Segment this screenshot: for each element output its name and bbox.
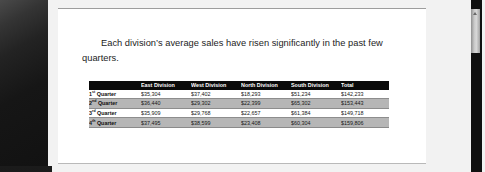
column-header-north: North Division (241, 81, 291, 90)
quarter-word: Quarter (95, 91, 116, 97)
cell-east-q2: $36,440 (141, 99, 191, 109)
column-header-corner (89, 81, 141, 90)
table-header-row: East Division West Division North Divisi… (89, 81, 389, 90)
cell-south-q1: $51,234 (291, 90, 341, 99)
body-paragraph: Each division’s average sales have risen… (82, 36, 394, 66)
row-label-quarter-2: 2nd Quarter (89, 99, 141, 109)
cell-north-q1: $18,293 (241, 90, 291, 99)
cell-east-q1: $35,304 (141, 90, 191, 99)
cell-north-q3: $22,657 (241, 108, 291, 118)
column-header-east: East Division (141, 81, 191, 90)
table-body: 1st Quarter $35,304 $37,402 $18,293 $51,… (89, 90, 389, 128)
cell-east-q4: $37,495 (141, 118, 191, 128)
vertical-scrollbar-thumb[interactable] (471, 9, 480, 53)
cell-total-q4: $159,806 (341, 118, 389, 128)
cell-west-q4: $38,599 (191, 118, 241, 128)
column-header-south: South Division (291, 81, 341, 90)
row-label-quarter-1: 1st Quarter (89, 90, 141, 99)
cell-west-q2: $29,302 (191, 99, 241, 109)
row-label-quarter-3: 3rd Quarter (89, 108, 141, 118)
cell-west-q3: $29,768 (191, 108, 241, 118)
left-dark-panel (0, 0, 48, 166)
table-row: 4th Quarter $37,495 $38,599 $23,408 $60,… (89, 118, 389, 128)
cell-total-q2: $153,443 (341, 99, 389, 109)
cell-south-q2: $65,302 (291, 99, 341, 109)
cell-west-q1: $37,402 (191, 90, 241, 99)
cell-south-q4: $60,304 (291, 118, 341, 128)
table-row: 2nd Quarter $36,440 $29,302 $22,399 $65,… (89, 99, 389, 109)
sales-table: East Division West Division North Divisi… (89, 81, 389, 128)
column-header-west: West Division (191, 81, 241, 90)
table-header: East Division West Division North Divisi… (89, 81, 389, 90)
cell-north-q2: $22,399 (241, 99, 291, 109)
document-viewer: Each division’s average sales have risen… (0, 0, 485, 172)
cell-total-q3: $149,718 (341, 108, 389, 118)
quarter-word: Quarter (95, 120, 116, 126)
cell-east-q3: $35,909 (141, 108, 191, 118)
right-dark-panel (0, 166, 52, 172)
scroll-up-arrow-icon[interactable] (473, 12, 477, 15)
document-page: Each division’s average sales have risen… (58, 8, 426, 164)
cell-total-q1: $142,233 (341, 90, 389, 99)
table-row: 3rd Quarter $35,909 $29,768 $22,657 $61,… (89, 108, 389, 118)
quarter-word: Quarter (96, 100, 117, 106)
row-label-quarter-4: 4th Quarter (89, 118, 141, 128)
cell-south-q3: $61,384 (291, 108, 341, 118)
quarter-word: Quarter (96, 110, 117, 116)
cell-north-q4: $23,408 (241, 118, 291, 128)
table-row: 1st Quarter $35,304 $37,402 $18,293 $51,… (89, 90, 389, 99)
column-header-total: Total (341, 81, 389, 90)
